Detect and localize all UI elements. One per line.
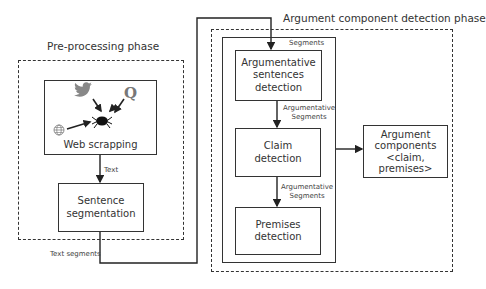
web-scrapping-label: Web scrapping [63,139,137,152]
argument-components-box: Argument components <claim, premises> [363,125,448,178]
web-globe-icon [53,124,65,136]
argumentative-segments-edge-label-2: Argumentative Segments [281,183,333,201]
components-line4: premises> [379,163,433,175]
sentence-segmentation-line2: segmentation [66,208,135,221]
preprocessing-phase-title: Pre-processing phase [47,40,159,52]
text-segments-label: Text segments [50,250,101,259]
text-edge-label: Text [104,166,118,175]
premises-line1: Premises [256,219,301,232]
sentence-segmentation-box: Sentence segmentation [58,183,144,232]
premises-line2: detection [254,231,301,244]
argument-phase-title: Argument component detection phase [283,12,486,24]
components-line2: components [375,140,437,152]
components-line3: <claim, [386,152,424,164]
claim-detection-box: Claim detection [235,128,321,177]
claim-line1: Claim [264,140,292,153]
sentence-segmentation-line1: Sentence [78,195,125,208]
argumentative-segments-edge-label-1: Argumentative Segments [283,104,335,122]
twitter-bird-icon [72,82,94,98]
argumentative-line3: detection [255,82,302,95]
argumentative-sentences-detection-box: Argumentative sentences detection [235,50,322,101]
segments-label: Segments [289,39,324,48]
argumentative-line1: Argumentative [241,57,316,70]
claim-line2: detection [254,153,301,166]
argumentative-line2: sentences [253,69,304,82]
crawl-arrow-right-icon [110,97,132,117]
web-link-arrow-icon [63,118,97,134]
components-line1: Argument [381,129,431,141]
premises-detection-box: Premises detection [235,207,321,255]
